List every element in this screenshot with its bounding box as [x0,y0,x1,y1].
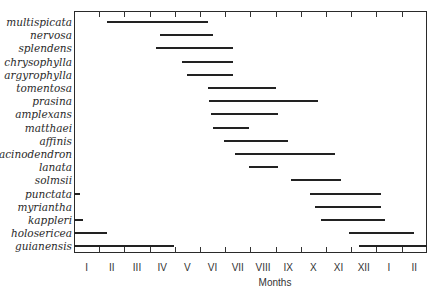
flowering-period-bar [213,127,250,129]
flowering-period-bar [359,245,427,247]
month-label: I [376,262,402,273]
axis-tick [175,247,176,253]
month-label: X [300,262,326,273]
axis-tick [250,11,251,17]
month-label: VIII [250,262,276,273]
species-label: chrysophylla [4,56,72,68]
axis-tick [99,11,100,17]
month-label: V [174,262,200,273]
axis-tick [276,11,277,17]
plot-frame [74,11,427,253]
axis-tick [124,247,125,253]
species-label: guianensis [15,240,72,252]
species-label: prasina [32,95,72,107]
flowering-period-bar [160,34,213,36]
axis-tick [225,11,226,17]
flowering-period-bar [235,153,335,155]
axis-tick [276,247,277,253]
axis-tick [250,247,251,253]
flowering-period-bar [321,219,385,221]
flowering-period-bar [209,100,319,102]
flowering-period-bar [107,21,208,23]
axis-tick [200,247,201,253]
axis-tick [402,11,403,17]
axis-tick [124,11,125,17]
axis-tick [99,247,100,253]
flowering-period-chart: multispicatanervosasplendenschrysophylla… [0,0,436,292]
flowering-period-bar [187,74,232,76]
axis-tick [402,247,403,253]
x-axis-label: Months [250,277,300,288]
flowering-period-bar [74,232,107,234]
month-label: XI [326,262,352,273]
month-label: III [124,262,150,273]
month-label: IV [149,262,175,273]
species-label: myriantha [17,201,72,213]
axis-tick [150,247,151,253]
flowering-period-bar [208,87,276,89]
axis-tick [200,11,201,17]
month-label: I [74,262,100,273]
axis-tick [326,247,327,253]
species-label: lanata [39,161,72,173]
species-label: holosericea [11,227,72,239]
flowering-period-bar [310,193,382,195]
axis-tick [301,247,302,253]
axis-tick [376,247,377,253]
axis-tick [351,247,352,253]
species-label: multispicata [6,16,72,28]
month-label: II [99,262,125,273]
species-label: matthaei [25,122,72,134]
flowering-period-bar [156,47,233,49]
species-label: splendens [18,42,72,54]
month-label: VII [225,262,251,273]
species-label: amplexans [15,108,72,120]
month-label: II [401,262,427,273]
axis-tick [225,247,226,253]
month-label: XII [351,262,377,273]
species-label: argyrophylla [4,69,72,81]
flowering-period-bar [315,206,382,208]
species-label: affinis [39,135,72,147]
axis-tick [301,11,302,17]
axis-tick [150,11,151,17]
flowering-period-bar [249,166,278,168]
axis-tick [351,11,352,17]
flowering-period-bar [349,232,415,234]
axis-tick [175,11,176,17]
flowering-period-bar [74,193,80,195]
flowering-period-bar [211,113,278,115]
axis-tick [326,11,327,17]
species-label: tomentosa [16,82,72,94]
species-label: nervosa [30,29,72,41]
flowering-period-bar [74,219,83,221]
month-label: VI [200,262,226,273]
species-label: solmsii [35,174,72,186]
flowering-period-bar [182,61,232,63]
axis-tick [376,11,377,17]
month-label: IX [275,262,301,273]
flowering-period-bar [224,140,288,142]
flowering-period-bar [291,179,341,181]
species-label: kappleri [28,214,72,226]
species-label: acinodendron [0,148,72,160]
species-label: punctata [25,188,72,200]
